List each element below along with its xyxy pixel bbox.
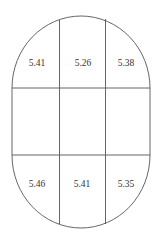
cell-bottom-left: 5.46 xyxy=(29,179,46,189)
stadium-grid-diagram: 5.41 5.26 5.38 5.46 5.41 5.35 xyxy=(0,0,158,241)
cell-top-right: 5.38 xyxy=(118,58,135,68)
cell-top-left: 5.41 xyxy=(29,58,46,68)
cell-top-center: 5.26 xyxy=(75,58,92,68)
cell-bottom-center: 5.41 xyxy=(74,179,91,189)
cell-bottom-right: 5.35 xyxy=(118,179,135,189)
stadium-outline xyxy=(12,16,150,228)
